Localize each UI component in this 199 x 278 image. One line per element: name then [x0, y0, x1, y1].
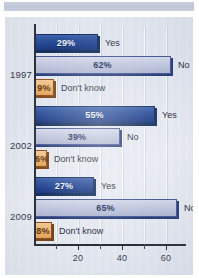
bar-value-label: 27%	[35, 181, 93, 191]
bar-category-label: Yes	[105, 38, 120, 48]
bar-1997-yes: 29% Yes	[34, 34, 120, 51]
bar-category-label: Don't know	[59, 226, 103, 236]
bar-category-label: No	[127, 132, 139, 142]
bar-fill: 9%	[34, 79, 54, 96]
bar-2009-dontknow: 8% Don't know	[34, 222, 103, 239]
group-label-2002: 2002	[10, 140, 32, 151]
x-tick-label-40: 40	[117, 253, 128, 263]
tick-50	[144, 244, 145, 249]
bar-value-label: 55%	[35, 110, 154, 120]
bar-2009-yes: 27% Yes	[34, 177, 116, 194]
bar-value-label: 62%	[35, 60, 170, 70]
bar-category-label: No	[178, 60, 190, 70]
bar-2002-yes: 55% Yes	[34, 106, 177, 124]
chart-panel: 1997 2002 2009 29% Yes 62% No	[5, 17, 193, 275]
bar-fill: 65%	[34, 199, 177, 217]
bar-category-label: Don't know	[61, 83, 105, 93]
bar-value-label: 8%	[35, 226, 51, 236]
bar-2009-no: 65% No	[34, 199, 193, 217]
bar-1997-dontknow: 9% Don't know	[34, 79, 105, 96]
bar-fill: 27%	[34, 177, 94, 194]
plot-area: 29% Yes 62% No 9% Don't know 55%	[34, 26, 186, 242]
group-label-2009: 2009	[10, 211, 32, 222]
page-header-highlight	[4, 11, 194, 15]
bar-category-label: Yes	[162, 110, 177, 120]
bar-fill: 29%	[34, 34, 98, 51]
y-axis-line	[34, 24, 36, 244]
bar-2002-dontknow: 6% Don't know	[34, 150, 98, 167]
bar-category-label: No	[184, 203, 193, 213]
bar-value-label: 65%	[35, 203, 176, 213]
bar-value-label: 39%	[35, 132, 119, 142]
bar-fill: 39%	[34, 128, 120, 145]
bar-fill: 55%	[34, 106, 155, 124]
bar-value-label: 6%	[35, 154, 46, 164]
bar-1997-no: 62% No	[34, 56, 190, 74]
tick-20	[78, 244, 79, 250]
tick-60	[166, 244, 167, 250]
tick-40	[122, 244, 123, 250]
bar-fill: 8%	[34, 222, 52, 239]
tick-30	[100, 244, 101, 249]
bar-category-label: Don't know	[54, 154, 98, 164]
bar-value-label: 29%	[35, 38, 97, 48]
x-tick-label-20: 20	[73, 253, 84, 263]
x-tick-label-60: 60	[161, 253, 172, 263]
bar-category-label: Yes	[101, 181, 116, 191]
bar-fill: 62%	[34, 56, 171, 74]
bar-2002-no: 39% No	[34, 128, 139, 145]
tick-10	[56, 244, 57, 249]
group-label-1997: 1997	[10, 69, 32, 80]
bar-value-label: 9%	[35, 83, 53, 93]
chart-figure: 1997 2002 2009 29% Yes 62% No	[0, 0, 199, 278]
